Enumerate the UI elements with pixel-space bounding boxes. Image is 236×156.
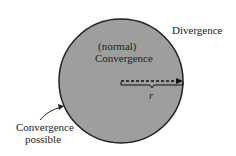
boundary-label-line2: possible	[25, 133, 61, 145]
boundary-label-line1: Convergence	[16, 121, 74, 133]
boundary-pointer-arrow	[40, 107, 62, 120]
radius-label: r	[149, 89, 153, 101]
normal-label: (normal)	[98, 40, 136, 52]
convergence-label: Convergence	[95, 52, 153, 64]
divergence-label: Divergence	[172, 24, 223, 36]
